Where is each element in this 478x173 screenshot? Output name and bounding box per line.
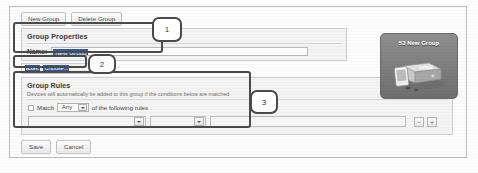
match-row: Match Any of the following rules bbox=[28, 103, 148, 112]
icon-value: Choose... bbox=[43, 65, 69, 72]
group-rules-description: Devices will automatically be added to t… bbox=[27, 91, 229, 97]
annotation-callout-2: 2 bbox=[88, 54, 116, 74]
group-preview-card[interactable]: 53 New Group bbox=[380, 33, 458, 99]
rule-value-input[interactable] bbox=[210, 116, 406, 127]
application-frame: New Group Delete Group Group Properties … bbox=[9, 6, 467, 158]
match-mode-value: Any bbox=[58, 104, 78, 111]
application-content: New Group Delete Group Group Properties … bbox=[10, 7, 466, 157]
match-label: Match bbox=[37, 104, 54, 111]
annotation-callout-3: 3 bbox=[250, 90, 278, 114]
delete-group-button[interactable]: Delete Group bbox=[71, 12, 122, 26]
chevron-down-icon bbox=[194, 117, 204, 126]
device-illustration-icon bbox=[389, 54, 451, 94]
group-name-value: New Group bbox=[53, 49, 88, 57]
add-rule-button[interactable]: + bbox=[427, 117, 437, 127]
divider bbox=[26, 43, 342, 44]
group-properties-title: Group Properties bbox=[27, 32, 88, 41]
rule-row-actions: − + bbox=[414, 117, 437, 127]
rule-field-select[interactable] bbox=[28, 116, 146, 127]
group-properties-panel: Group Properties Name: New Group bbox=[21, 28, 347, 61]
cancel-button[interactable]: Cancel bbox=[56, 140, 91, 154]
rule-operator-select[interactable] bbox=[150, 116, 206, 127]
name-label: Name: bbox=[27, 48, 47, 55]
divider bbox=[26, 99, 448, 100]
icon-label: Icon: bbox=[25, 65, 40, 72]
annotation-callout-1: 1 bbox=[152, 17, 182, 42]
rule-row: − + bbox=[28, 116, 447, 127]
remove-rule-button[interactable]: − bbox=[414, 117, 424, 127]
save-button[interactable]: Save bbox=[21, 140, 51, 154]
form-actions: Save Cancel bbox=[21, 140, 91, 154]
match-suffix-label: of the following rules bbox=[92, 104, 148, 111]
chevron-down-icon bbox=[134, 117, 144, 126]
screenshot-root: New Group Delete Group Group Properties … bbox=[0, 0, 478, 173]
new-group-button[interactable]: New Group bbox=[21, 12, 66, 26]
group-preview-title: 53 New Group bbox=[381, 40, 457, 46]
icon-selector-row[interactable]: Icon: Choose... bbox=[21, 63, 95, 74]
name-row: Name: New Group bbox=[27, 47, 308, 56]
chevron-down-icon bbox=[78, 104, 87, 112]
group-rules-title: Group Rules bbox=[27, 81, 70, 90]
toolbar: New Group Delete Group bbox=[21, 12, 122, 26]
match-checkbox[interactable] bbox=[28, 105, 34, 111]
match-mode-select[interactable]: Any bbox=[57, 103, 89, 112]
